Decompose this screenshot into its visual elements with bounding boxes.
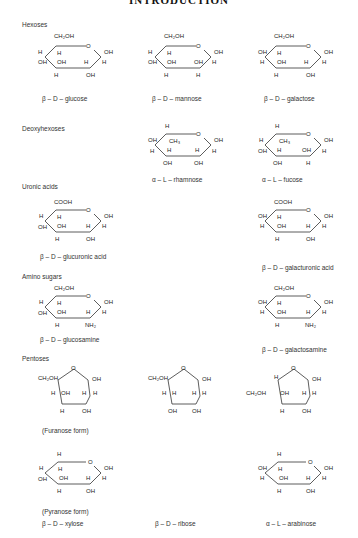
- svg-text:H: H: [306, 223, 310, 229]
- section-label-deoxyhexoses: Deoxyhexoses: [22, 125, 65, 132]
- svg-text:H: H: [260, 223, 264, 229]
- svg-text:O: O: [181, 365, 186, 371]
- svg-text:OH: OH: [194, 160, 203, 166]
- mannose-structure: CH₂OH O H H OH OH H OH H OH H: [148, 28, 228, 83]
- svg-text:H: H: [277, 147, 281, 153]
- svg-text:OH: OH: [82, 408, 91, 414]
- svg-text:OH: OH: [324, 49, 333, 55]
- svg-text:OH: OH: [194, 59, 203, 65]
- svg-text:OH: OH: [148, 137, 157, 143]
- svg-text:CH₂OH: CH₂OH: [148, 375, 168, 381]
- svg-text:OH: OH: [192, 408, 201, 414]
- svg-text:H: H: [102, 309, 106, 315]
- svg-text:H: H: [259, 137, 263, 143]
- svg-text:H: H: [277, 488, 281, 494]
- svg-text:OH: OH: [57, 223, 66, 229]
- svg-text:H: H: [162, 390, 166, 396]
- svg-text:H: H: [51, 390, 55, 396]
- section-label-hexoses: Hexoses: [22, 21, 47, 28]
- svg-text:OH: OH: [104, 465, 113, 471]
- xylose-furanose-structure: O CH₂OH OH H OH H H H OH: [38, 364, 118, 419]
- glucosamine-structure: CH₂OH O H H OH OH H H NH₂ OH H: [38, 282, 118, 337]
- glucuronic-acid-structure: COOH O H H OH OH H H OH OH H: [38, 196, 118, 251]
- rhamnose-structure: H O OH CH₃ H H OH H OH OH H: [148, 118, 228, 173]
- galactose-structure: CH₂OH O OH H H OH H H OH OH H: [258, 28, 338, 83]
- svg-text:CH₂OH: CH₂OH: [274, 33, 294, 39]
- caption-ribose: β – D – ribose: [155, 520, 196, 527]
- svg-text:OH: OH: [148, 59, 157, 65]
- svg-text:H: H: [277, 451, 281, 457]
- svg-text:OH: OH: [280, 390, 289, 396]
- svg-text:H: H: [54, 72, 58, 78]
- svg-text:O: O: [306, 293, 311, 299]
- svg-text:OH: OH: [258, 49, 267, 55]
- svg-text:OH: OH: [306, 236, 315, 242]
- svg-text:OH: OH: [306, 488, 315, 494]
- svg-text:H: H: [322, 475, 326, 481]
- svg-text:H: H: [60, 408, 64, 414]
- svg-text:COOH: COOH: [274, 199, 292, 205]
- svg-text:H: H: [102, 475, 106, 481]
- svg-text:H: H: [57, 50, 61, 56]
- svg-text:OH: OH: [324, 299, 333, 305]
- svg-text:H: H: [172, 390, 176, 396]
- svg-text:H: H: [165, 123, 169, 129]
- svg-text:OH: OH: [104, 299, 113, 305]
- svg-text:CH₂OH: CH₂OH: [164, 33, 184, 39]
- svg-text:OH: OH: [104, 49, 113, 55]
- svg-text:H: H: [55, 322, 59, 328]
- glucose-structure: CH₂OH O H H OH OH H H OH OH H: [38, 28, 118, 83]
- svg-text:H: H: [57, 300, 61, 306]
- svg-text:H: H: [278, 466, 282, 472]
- xylose-pyranose-structure: H O H H OH OH H H OH OH H: [38, 448, 118, 503]
- caption-pyranose-form: (Pyranose form): [42, 508, 89, 515]
- svg-text:H: H: [277, 50, 281, 56]
- svg-text:OH: OH: [163, 160, 172, 166]
- svg-text:OH: OH: [324, 465, 333, 471]
- svg-text:OH: OH: [202, 376, 211, 382]
- arabinose-furanose-structure: O H OH CH₂OH OH H H H OH: [246, 364, 336, 419]
- svg-text:H: H: [196, 72, 200, 78]
- svg-text:OH: OH: [258, 148, 267, 154]
- svg-text:OH: OH: [214, 137, 223, 143]
- svg-text:H: H: [274, 374, 278, 380]
- svg-text:H: H: [102, 59, 106, 65]
- svg-text:OH: OH: [258, 299, 267, 305]
- fucose-structure: H O H CH₃ OH H OH OH H OH H: [258, 118, 338, 173]
- svg-text:OH: OH: [258, 465, 267, 471]
- caption-mannose: β – D – mannose: [152, 95, 202, 102]
- svg-text:H: H: [322, 148, 326, 154]
- svg-text:OH: OH: [38, 476, 47, 482]
- galactosamine-structure: CH₂OH O OH H H OH H H NH₂ OH H: [258, 282, 338, 337]
- svg-text:O: O: [308, 459, 313, 465]
- svg-text:OH: OH: [324, 137, 333, 143]
- svg-text:H: H: [306, 309, 310, 315]
- svg-text:H: H: [260, 475, 264, 481]
- svg-text:H: H: [82, 390, 86, 396]
- svg-text:H: H: [322, 59, 326, 65]
- svg-text:CH₂OH: CH₂OH: [38, 375, 58, 381]
- svg-text:H: H: [86, 223, 90, 229]
- svg-text:OH: OH: [168, 408, 177, 414]
- galacturonic-acid-structure: COOH O OH H H OH H H OH OH H: [258, 196, 338, 251]
- caption-galactose: β – D – galactose: [264, 95, 315, 102]
- svg-text:H: H: [167, 50, 171, 56]
- svg-text:H: H: [164, 72, 168, 78]
- svg-text:H: H: [57, 451, 61, 457]
- svg-text:OH: OH: [279, 475, 288, 481]
- svg-text:H: H: [322, 223, 326, 229]
- svg-text:O: O: [291, 365, 296, 371]
- caption-galactosamine: β – D – galactosamine: [262, 346, 327, 353]
- svg-text:O: O: [196, 43, 201, 49]
- svg-text:OH: OH: [277, 223, 286, 229]
- svg-text:H: H: [275, 123, 279, 129]
- section-label-uronic-acids: Uronic acids: [22, 183, 58, 190]
- svg-text:OH: OH: [86, 236, 95, 242]
- svg-text:H: H: [39, 213, 43, 219]
- svg-text:NH₂: NH₂: [85, 322, 97, 328]
- svg-text:CH₂OH: CH₂OH: [274, 285, 294, 291]
- svg-text:OH: OH: [92, 376, 101, 382]
- svg-text:OH: OH: [273, 160, 282, 166]
- ribose-furanose-structure: O CH₂OH OH H H H H OH OH: [148, 364, 228, 419]
- svg-text:OH: OH: [312, 376, 321, 382]
